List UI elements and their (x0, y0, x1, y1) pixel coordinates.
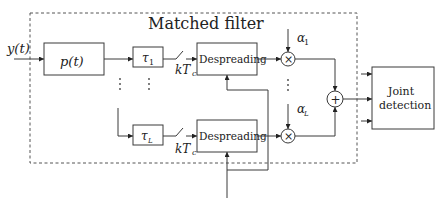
multiplier-bottom-symbol: × (284, 130, 293, 143)
sampler-top-switch (176, 51, 183, 59)
delay-bottom-symbol: τ (141, 129, 148, 143)
despreading-bottom-label: Despreading (199, 130, 267, 142)
gain-top-sub: 1 (304, 38, 309, 47)
joint-detection-line2: detection (379, 99, 431, 112)
delay-top-sub: 1 (149, 58, 154, 67)
pulse-block-label: p(t) (60, 54, 84, 69)
sampler-top-label: kT (175, 63, 191, 77)
matched-filter-diagram: Matched filter y(t) p(t) τ 1 kT c Despre… (0, 0, 444, 210)
gain-bottom-sub: L (303, 110, 309, 118)
ellipsis-pulse-branch (119, 78, 121, 90)
input-label: y(t) (6, 41, 30, 56)
sampler-bottom-sub: c (192, 148, 197, 157)
matched-filter-boundary (30, 13, 357, 163)
sampler-top-sub: c (192, 69, 197, 78)
summer-symbol: + (331, 93, 341, 107)
multiplier-top-symbol: × (284, 53, 293, 66)
joint-detection-block (372, 67, 434, 129)
despreading-top-label: Despreading (199, 53, 267, 65)
ellipsis-delay-branch (148, 78, 150, 90)
joint-detection-line1: Joint (387, 85, 415, 98)
delay-top-symbol: τ (142, 51, 149, 65)
matched-filter-title: Matched filter (148, 14, 264, 33)
mult-top-to-sum (295, 59, 335, 91)
ellipsis-multiplier-branch (287, 79, 289, 91)
delay-bottom-sub: L (147, 137, 153, 145)
sampler-bottom-label: kT (175, 142, 191, 156)
sampler-bottom-switch (176, 128, 183, 136)
branch-bottom-arrow (118, 108, 133, 136)
